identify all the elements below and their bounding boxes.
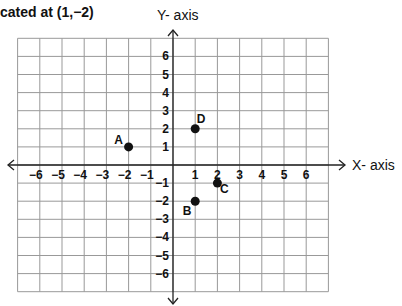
- x-tick-label: 1: [192, 168, 199, 182]
- x-tick-label: −5: [51, 168, 65, 182]
- x-tick-label: −3: [96, 168, 110, 182]
- coordinate-plane: Y- axisX- axis−6−5−4−3−2−1123456654321−1…: [0, 0, 402, 306]
- point-label: B: [183, 204, 192, 218]
- x-tick-label: 5: [281, 168, 288, 182]
- y-tick-label: −1: [155, 176, 169, 190]
- x-axis-label: X- axis: [352, 157, 395, 173]
- y-tick-label: 3: [162, 104, 169, 118]
- data-point: [124, 142, 133, 151]
- y-tick-label: −4: [155, 230, 169, 244]
- y-tick-label: 5: [162, 68, 169, 82]
- y-tick-label: −3: [155, 212, 169, 226]
- y-tick-label: −2: [155, 194, 169, 208]
- y-tick-label: −6: [155, 267, 169, 281]
- x-tick-label: −1: [140, 168, 154, 182]
- data-point: [191, 197, 200, 206]
- x-tick-label: −2: [118, 168, 132, 182]
- y-tick-label: 4: [162, 86, 169, 100]
- y-tick-label: 1: [162, 140, 169, 154]
- x-tick-label: 6: [303, 168, 310, 182]
- x-tick-label: −4: [73, 168, 87, 182]
- y-tick-label: 6: [162, 49, 169, 63]
- x-tick-label: 3: [236, 168, 243, 182]
- point-label: D: [197, 112, 206, 126]
- y-tick-label: −5: [155, 249, 169, 263]
- y-axis-label: Y- axis: [157, 7, 199, 23]
- point-label: A: [114, 133, 123, 147]
- point-label: C: [220, 182, 229, 196]
- y-tick-label: 2: [162, 122, 169, 136]
- x-tick-label: 4: [258, 168, 265, 182]
- x-tick-label: −6: [29, 168, 43, 182]
